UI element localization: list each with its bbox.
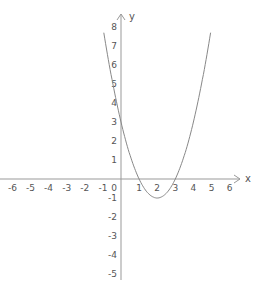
x-tick-label: 6 (227, 183, 233, 193)
y-tick-label: 6 (111, 60, 117, 70)
y-tick-label: 3 (111, 117, 117, 127)
y-tick-label: 8 (111, 22, 117, 32)
x-tick-label: -6 (8, 183, 17, 193)
y-tick-label: -1 (108, 193, 117, 203)
x-tick-label: 5 (209, 183, 215, 193)
x-tick-label: -4 (44, 183, 53, 193)
x-tick-label: 3 (172, 183, 178, 193)
y-tick-label: -2 (108, 212, 117, 222)
parabola-plot: xy-6-5-4-3-2-10123456-5-4-3-2-112345678 (0, 0, 255, 285)
y-tick-label: 1 (111, 155, 117, 165)
y-tick-label: 2 (111, 136, 117, 146)
parabola-curve (104, 33, 211, 198)
x-tick-label: -1 (98, 183, 107, 193)
x-tick-label: -2 (80, 183, 89, 193)
x-tick-label: 1 (136, 183, 142, 193)
x-tick-label: -5 (26, 183, 35, 193)
y-tick-label: -5 (108, 269, 117, 279)
x-tick-label: -3 (62, 183, 71, 193)
y-tick-label: 7 (111, 41, 117, 51)
x-tick-label: 2 (154, 183, 160, 193)
y-tick-label: -3 (108, 231, 117, 241)
x-tick-label: 4 (191, 183, 197, 193)
x-tick-label: 0 (111, 183, 117, 193)
y-tick-label: -4 (108, 250, 117, 260)
y-axis-label: y (129, 11, 135, 22)
x-axis-label: x (245, 173, 251, 184)
